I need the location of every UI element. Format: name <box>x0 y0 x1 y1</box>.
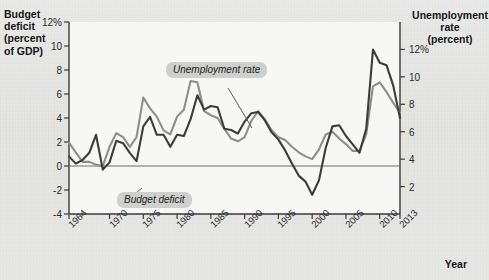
series-label-unemployment-rate: Unemployment rate <box>166 62 267 78</box>
right-axis-tick-label: 6 <box>409 126 415 137</box>
left-axis-tick-label: -2 <box>16 185 62 196</box>
right-axis-title: Unemployment rate (percent) <box>412 9 488 46</box>
left-axis-tick-label: 6 <box>16 89 62 100</box>
left-axis-tick-label: 4 <box>16 113 62 124</box>
right-axis-tick-label: 12% <box>409 44 429 55</box>
series-label-budget-deficit: Budget deficit <box>117 192 192 208</box>
left-axis-tick-label: -4 <box>16 209 62 220</box>
chart-figure: Budget deficit (percent of GDP) Unemploy… <box>0 0 489 280</box>
left-axis-tick-label: 2 <box>16 137 62 148</box>
x-axis-title: Year <box>445 258 467 270</box>
right-axis-tick-label: 4 <box>409 154 415 165</box>
plot-background <box>69 22 400 214</box>
left-axis-tick-label: 8 <box>16 65 62 76</box>
left-axis-tick-label: 12% <box>16 17 62 28</box>
left-axis-tick-label: 10 <box>16 41 62 52</box>
right-axis-tick-label: 2 <box>409 181 415 192</box>
right-axis-tick-label: 10 <box>409 71 420 82</box>
right-axis-tick-label: 8 <box>409 99 415 110</box>
left-axis-tick-label: 0 <box>16 161 62 172</box>
